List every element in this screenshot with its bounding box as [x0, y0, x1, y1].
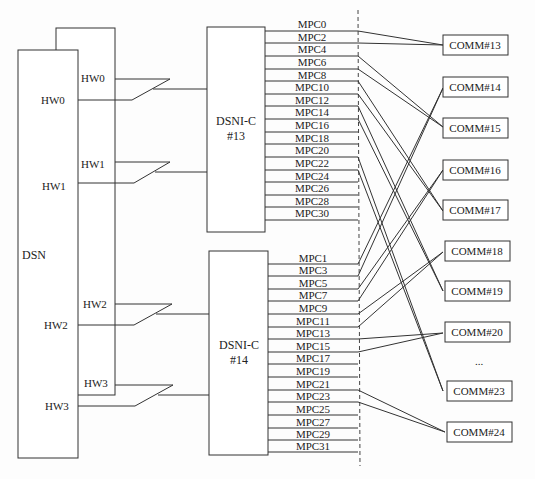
- dashed-separator: [358, 10, 360, 466]
- comm-14-label: COMM#14: [449, 81, 501, 93]
- hw-front-label-0: HW0: [41, 94, 65, 106]
- mpc-label: MPC9: [299, 302, 328, 314]
- dsn-label: DSN: [22, 248, 46, 262]
- dsni-c-14-label-line2: #14: [230, 353, 248, 367]
- comm-19-label: COMM#19: [451, 285, 503, 297]
- hw-back-label-1: HW1: [81, 158, 105, 170]
- mpc-label: MPC26: [295, 182, 330, 194]
- mpc-label: MPC24: [295, 170, 330, 182]
- comm-15-label: COMM#15: [449, 122, 501, 134]
- mpc-label: MPC30: [295, 207, 330, 219]
- comm-18-label: COMM#18: [451, 245, 503, 257]
- mpc-label: MPC29: [296, 428, 331, 440]
- hw-front-label-3: HW3: [45, 400, 69, 412]
- mpc-label: MPC4: [298, 43, 327, 55]
- mpc-label: MPC5: [299, 277, 328, 289]
- mpc-label: MPC27: [296, 416, 331, 428]
- mpc-label: MPC22: [295, 157, 329, 169]
- mpc-label: MPC8: [298, 69, 327, 81]
- comm-13-label: COMM#13: [449, 39, 501, 51]
- mpc-label: MPC15: [296, 340, 331, 352]
- mpc-comm-links: [358, 31, 445, 432]
- mpc-label: MPC19: [296, 365, 331, 377]
- mpc-label: MPC6: [298, 56, 327, 68]
- mpc-label: MPC31: [296, 440, 330, 452]
- mpc-label: MPC17: [296, 352, 331, 364]
- ellipsis: ...: [475, 355, 484, 367]
- dsn-mpc-comm-diagram: DSN HW0 HW1 HW2 HW3 HW0 HW1 HW2 HW3 DSNI…: [0, 0, 535, 479]
- mpc-label: MPC20: [295, 144, 330, 156]
- mpc-label: MPC21: [296, 378, 330, 390]
- mpc-label: MPC13: [296, 327, 331, 339]
- mpc-label: MPC23: [296, 390, 331, 402]
- mpc-label: MPC10: [295, 81, 330, 93]
- mpc-label: MPC14: [295, 106, 330, 118]
- comm-20-label: COMM#20: [451, 326, 503, 338]
- mpc-label: MPC2: [298, 31, 327, 43]
- comm-17-label: COMM#17: [449, 204, 501, 216]
- mpc-label: MPC16: [295, 119, 330, 131]
- mpc-label: MPC3: [299, 264, 328, 276]
- hw-back-label-0: HW0: [81, 72, 105, 84]
- mpc-label: MPC25: [296, 403, 331, 415]
- comm-16-label: COMM#16: [449, 164, 501, 176]
- dsni-c-13-label-line1: DSNI-C: [216, 114, 256, 128]
- hw-front-label-1: HW1: [42, 180, 66, 192]
- comm-23-label: COMM#23: [453, 385, 505, 397]
- mpc-label: MPC28: [295, 195, 330, 207]
- mpc-label: MPC12: [295, 94, 329, 106]
- mpc-label: MPC18: [295, 132, 330, 144]
- mpc-label: MPC0: [298, 18, 327, 30]
- mpc-label: MPC7: [299, 289, 328, 301]
- hw-back-label-2: HW2: [83, 298, 107, 310]
- mpc-label: MPC11: [296, 315, 330, 327]
- comm-24-label: COMM#24: [453, 426, 505, 438]
- mpc-label: MPC1: [299, 252, 328, 264]
- dsni-c-14-label-line1: DSNI-C: [219, 338, 259, 352]
- dsni-c-13-label-line2: #13: [227, 129, 245, 143]
- hw-back-label-3: HW3: [84, 377, 108, 389]
- hw-front-label-2: HW2: [44, 319, 68, 331]
